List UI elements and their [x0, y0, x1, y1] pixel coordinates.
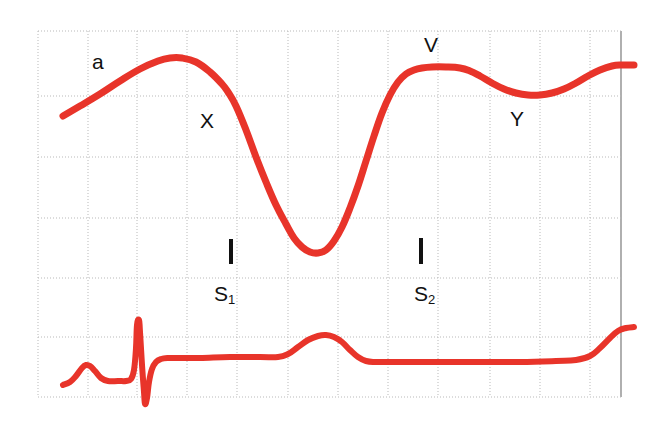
s1-tick-marker: [229, 239, 233, 264]
grid-vertical-lines: [38, 31, 621, 397]
label-s1-text: S: [214, 282, 228, 305]
s2-tick-marker: [419, 238, 423, 264]
jugular-venous-pulse-trace: [63, 57, 634, 253]
label-s1-heart-sound: S1: [214, 283, 235, 304]
label-v-wave: V: [424, 34, 438, 55]
jvp-ecg-figure: a X V Y S1 S2: [0, 0, 661, 433]
label-s2-subscript: 2: [428, 292, 435, 307]
label-s2-text: S: [414, 282, 428, 305]
label-x-descent: X: [200, 110, 214, 131]
label-s2-heart-sound: S2: [414, 283, 435, 304]
label-a-wave: a: [92, 51, 104, 72]
grid-horizontal-lines: [38, 31, 621, 397]
electrocardiogram-trace: [63, 319, 634, 404]
label-y-descent: Y: [510, 108, 524, 129]
label-s1-subscript: 1: [228, 292, 235, 307]
